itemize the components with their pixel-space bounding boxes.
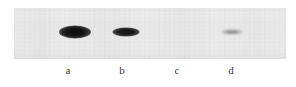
- band-lane-d: [221, 30, 243, 35]
- blot-membrane: [14, 8, 286, 59]
- lane-label-a: a: [66, 64, 71, 76]
- blot-figure: a b c d: [0, 0, 296, 87]
- lane-label-b: b: [119, 64, 125, 76]
- lane-label-d: d: [228, 64, 234, 76]
- band-lane-a: [59, 26, 91, 39]
- band-lane-b: [113, 28, 140, 37]
- lane-label-c: c: [175, 64, 180, 76]
